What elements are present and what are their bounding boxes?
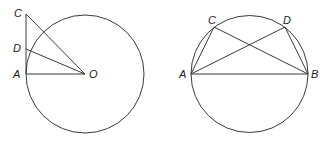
segment-cb [214,27,308,74]
point-label-a: A [12,68,20,80]
point-label-d: D [13,42,21,54]
inscribed-angles-figure: ABCD [178,14,318,133]
segment-db [285,27,308,74]
point-label-a: A [178,68,186,80]
point-label-c: C [208,14,216,26]
segment-ac [191,27,214,74]
point-label-o: O [89,68,98,80]
tangent-circle-figure: CDAO [12,7,144,133]
point-label-d: D [283,14,291,26]
point-label-b: B [311,68,318,80]
segment-do [26,49,85,74]
point-label-c: C [14,7,22,19]
segment-ad [191,27,285,74]
geometry-figures: CDAO ABCD [0,0,333,144]
